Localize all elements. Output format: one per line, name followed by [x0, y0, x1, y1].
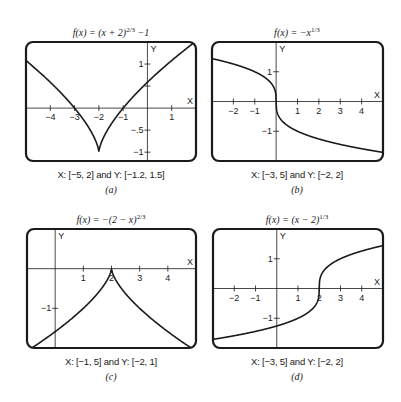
x-tick-label: 3 [338, 293, 343, 303]
y-axis-label: Y [280, 231, 286, 241]
x-tick-label: 1 [295, 293, 300, 303]
x-tick-label: −1 [250, 293, 260, 303]
window-caption: X: [−3, 5] and Y: [−2, 2] [251, 356, 343, 367]
x-tick-label: −2 [229, 293, 239, 303]
x-tick-label: 4 [359, 293, 364, 303]
y-tick-label: −1 [262, 313, 272, 323]
axes: XY−2−11234−11 [213, 229, 383, 348]
y-tick-label: 1 [268, 254, 273, 264]
graph-plot: XY−2−11234−11 [0, 0, 401, 402]
x-axis-label: X [374, 277, 380, 287]
panel-sublabel: (d) [291, 371, 303, 382]
